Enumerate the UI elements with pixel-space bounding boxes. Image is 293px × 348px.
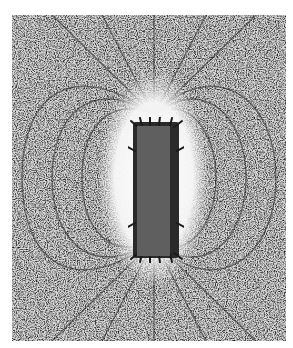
iron-filings-photo bbox=[0, 0, 293, 348]
bar-magnet bbox=[137, 126, 170, 256]
